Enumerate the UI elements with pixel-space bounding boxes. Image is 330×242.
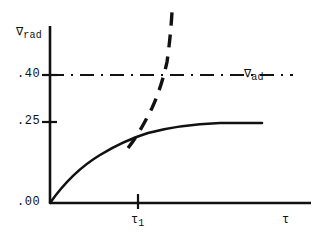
y-tick-label-000: .00 bbox=[17, 196, 40, 208]
gradient-radiative-curve bbox=[50, 123, 262, 203]
y-axis-label-subscript: rad bbox=[23, 30, 42, 41]
chart-figure: ∇rad .40 .25 .00 ∇ad τ1 τ bbox=[0, 0, 330, 242]
y-tick-label-040: .40 bbox=[17, 68, 40, 80]
gradient-steep-dashed-curve bbox=[128, 12, 172, 148]
y-tick-label-025: .25 bbox=[17, 115, 40, 127]
y-axis-label: ∇rad bbox=[16, 26, 42, 41]
nabla-ad-subscript: ad bbox=[251, 72, 264, 83]
x-tick-label-tau1: τ1 bbox=[131, 214, 144, 229]
chart-plot-area bbox=[0, 0, 330, 242]
tau1-subscript: 1 bbox=[138, 218, 144, 229]
nabla-ad-label: ∇ad bbox=[244, 68, 264, 83]
x-axis-label: τ bbox=[282, 214, 289, 226]
